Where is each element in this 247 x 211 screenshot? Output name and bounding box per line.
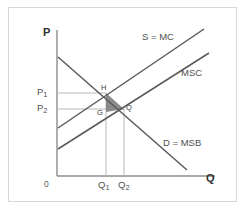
tick-p1-sub: 1 bbox=[43, 90, 47, 99]
point-label-h: H bbox=[101, 84, 106, 92]
curve-label-msc: MSC bbox=[181, 68, 202, 78]
tick-q1-sub: 1 bbox=[105, 183, 109, 192]
tick-label-p1: P1 bbox=[37, 87, 47, 98]
y-axis-label: P bbox=[43, 27, 50, 38]
tick-p2-sub: 2 bbox=[43, 106, 47, 115]
economics-diagram-figure: P Q 0 P1 P2 Q1 Q2 S = MC MSC D = MSB H G… bbox=[0, 0, 247, 211]
origin-label: 0 bbox=[44, 180, 49, 189]
tick-label-q1: Q1 bbox=[98, 180, 110, 191]
curve-supply-mc bbox=[58, 29, 204, 128]
x-axis-label: Q bbox=[206, 173, 215, 184]
point-label-g: G bbox=[97, 109, 103, 117]
tick-q2-sub: 2 bbox=[125, 183, 129, 192]
tick-label-q2: Q2 bbox=[118, 180, 130, 191]
curve-label-demand-msb: D = MSB bbox=[163, 138, 201, 148]
tick-label-p2: P2 bbox=[37, 103, 47, 114]
curve-label-supply-mc: S = MC bbox=[142, 32, 174, 42]
point-label-q: Q bbox=[126, 104, 132, 112]
curve-demand-msb bbox=[58, 57, 187, 170]
